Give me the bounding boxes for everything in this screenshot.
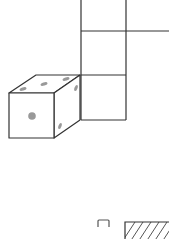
diagram-canvas [0,0,169,239]
pip-front-center [28,112,36,120]
